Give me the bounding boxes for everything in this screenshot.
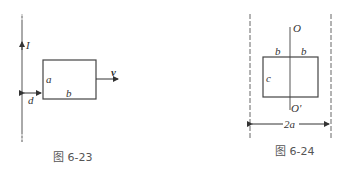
half-width-left-label: b [275,45,281,57]
axis-bottom-label: O' [291,102,302,114]
axis-top-label: O [293,22,301,34]
side-b-label: b [66,87,72,99]
caption-6-23: 图 6-23 [53,151,92,164]
figure-6-24: O b b c O' 2a 图 6-24 [250,14,331,158]
current-label: I [25,39,31,51]
side-a-label: a [46,73,52,85]
distance-label: d [28,94,34,106]
separation-label: 2a [284,118,296,130]
figure-6-23: I a b d v 图 6-23 [22,14,118,164]
height-label: c [266,72,271,84]
figure-canvas: I a b d v 图 6-23 O b b c O' 2a 图 6-24 [0,0,350,171]
caption-6-24: 图 6-24 [275,145,314,158]
half-width-right-label: b [301,45,307,57]
velocity-label: v [111,66,116,78]
